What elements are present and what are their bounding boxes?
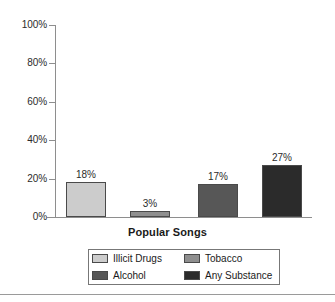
bar-alcohol[interactable]: [198, 184, 238, 217]
legend-label-tobacco: Tobacco: [205, 253, 242, 264]
y-tick-label-80: 80%: [3, 58, 47, 68]
legend-label-illicit-drugs: Illicit Drugs: [113, 253, 162, 264]
bar-any-substance[interactable]: [262, 165, 302, 217]
bottom-divider: [0, 294, 335, 295]
legend-item-illicit-drugs[interactable]: Illicit Drugs: [92, 250, 184, 267]
legend-item-alcohol[interactable]: Alcohol: [92, 267, 184, 284]
y-tick-label-20: 20%: [3, 174, 47, 184]
x-axis-title: Popular Songs: [0, 226, 335, 238]
bar-tobacco[interactable]: [130, 211, 170, 217]
legend-item-any-substance[interactable]: Any Substance: [184, 267, 284, 284]
legend-swatch-icon-any-substance: [184, 271, 200, 280]
bar-chart: 100% 80% 60% 40% 20% 0% 18% 3% 17% 27% P…: [0, 0, 335, 302]
legend-swatch-icon-illicit-drugs: [92, 254, 108, 263]
legend-swatch-icon-tobacco: [184, 254, 200, 263]
x-axis-line: [47, 217, 312, 218]
legend: Illicit Drugs Tobacco Alcohol Any Substa…: [88, 249, 280, 285]
bar-value-label-any-substance: 27%: [259, 153, 305, 163]
plot-area: [55, 25, 312, 217]
legend-label-alcohol: Alcohol: [113, 270, 146, 281]
y-tick-label-100: 100%: [3, 20, 47, 30]
bar-value-label-tobacco: 3%: [127, 199, 173, 209]
y-tick-label-0: 0%: [3, 212, 47, 222]
bar-value-label-alcohol: 17%: [195, 172, 241, 182]
bar-illicit-drugs[interactable]: [66, 182, 106, 217]
bar-value-label-illicit-drugs: 18%: [63, 170, 109, 180]
y-tick-label-40: 40%: [3, 135, 47, 145]
legend-item-tobacco[interactable]: Tobacco: [184, 250, 284, 267]
legend-swatch-icon-alcohol: [92, 271, 108, 280]
legend-label-any-substance: Any Substance: [205, 270, 272, 281]
y-tick-label-60: 60%: [3, 97, 47, 107]
